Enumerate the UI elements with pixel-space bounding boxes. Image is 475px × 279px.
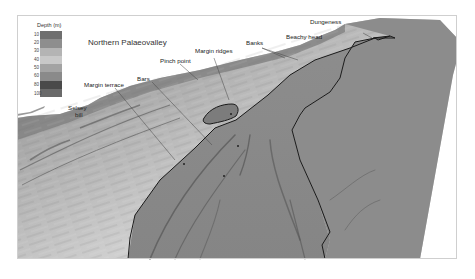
legend-tick: 20 [34, 40, 39, 45]
legend-tick: 40 [34, 57, 39, 62]
legend-tick: 80 [34, 82, 39, 87]
legend-tick: 50 [34, 65, 39, 70]
label-beachy-head: Beachy head [286, 34, 322, 40]
legend-tick: 100 [34, 91, 42, 96]
region-title: Northern Palaeovalley [88, 38, 167, 47]
label-bars: Bars [137, 76, 150, 82]
label-dungeness: Dungeness [310, 19, 341, 25]
legend-tick: 10 [34, 32, 39, 37]
figure-frame [17, 15, 457, 259]
label-margin-terrace: Margin terrace [84, 82, 124, 88]
label-margin-ridges: Margin ridges [195, 48, 233, 54]
legend-tick: 30 [34, 48, 39, 53]
depth-legend: Depth (m) 10 20 30 40 50 60 80 100 [33, 22, 63, 98]
legend-color-bar: 10 20 30 40 50 60 80 100 [40, 31, 62, 97]
legend-title: Depth (m) [37, 22, 61, 28]
label-selsey-bill: Selsey bill [68, 105, 87, 118]
bathymetry-figure: Depth (m) 10 20 30 40 50 60 80 100 North… [0, 0, 475, 279]
label-pinch-point: Pinch point [160, 58, 191, 64]
label-banks: Banks [246, 40, 263, 46]
legend-tick: 60 [34, 73, 39, 78]
